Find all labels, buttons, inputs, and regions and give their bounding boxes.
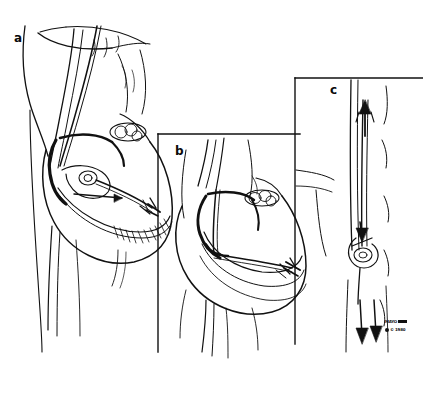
figure-root: a b c MAYO © 1980 xyxy=(0,0,423,394)
signature-line-bottom: © 1980 xyxy=(385,327,407,332)
illustration-signature: MAYO © 1980 xyxy=(385,319,407,332)
signature-rule xyxy=(398,320,407,323)
signature-mayo-text: MAYO xyxy=(385,319,397,324)
panel-label-c: c xyxy=(330,84,337,96)
signature-year-text: © 1980 xyxy=(390,327,405,332)
panel-label-b: b xyxy=(175,145,184,157)
signature-line-top: MAYO xyxy=(385,319,407,324)
copyright-mark-icon xyxy=(385,328,389,332)
panel-label-a: a xyxy=(14,32,22,44)
illustration-canvas xyxy=(0,0,423,394)
